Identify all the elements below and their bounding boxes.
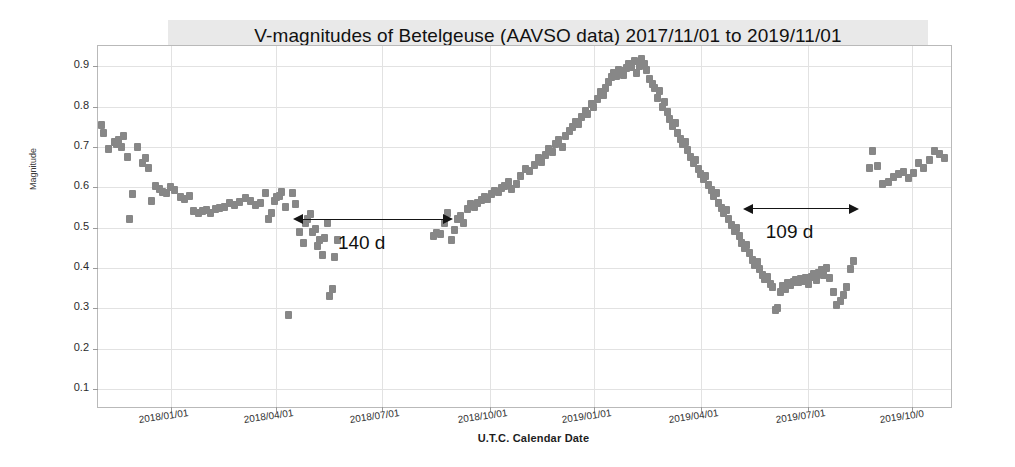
y-tick-mark bbox=[93, 268, 98, 269]
data-point bbox=[126, 215, 133, 223]
data-point bbox=[874, 162, 881, 170]
data-point bbox=[292, 200, 299, 208]
data-point bbox=[843, 283, 850, 291]
data-point bbox=[129, 190, 136, 198]
data-point bbox=[105, 145, 112, 153]
data-point bbox=[656, 87, 663, 95]
y-tick-mark bbox=[93, 187, 98, 188]
x-tick-label: 2019/04/01 bbox=[668, 407, 719, 425]
data-point bbox=[620, 71, 627, 79]
data-point bbox=[307, 210, 314, 218]
data-point bbox=[186, 192, 193, 200]
y-tick-label: 0.8 bbox=[0, 99, 89, 111]
y-tick-mark bbox=[93, 349, 98, 350]
data-point bbox=[460, 219, 467, 227]
data-point bbox=[590, 103, 597, 111]
y-tick-mark bbox=[93, 107, 98, 108]
y-tick-label: 0.2 bbox=[0, 341, 89, 353]
data-point bbox=[926, 156, 933, 164]
annotation-arrow-head-right bbox=[849, 204, 859, 214]
data-point bbox=[723, 206, 730, 214]
annotation-label: 109 d bbox=[766, 221, 814, 243]
data-point bbox=[312, 225, 319, 233]
gridline-horizontal bbox=[98, 187, 951, 188]
data-point bbox=[531, 161, 538, 169]
gridline-horizontal bbox=[98, 349, 951, 350]
data-point bbox=[823, 264, 830, 272]
data-point bbox=[285, 311, 292, 319]
x-tick-label: 2019/10/0 bbox=[879, 408, 925, 425]
plot-area bbox=[97, 45, 952, 408]
data-point bbox=[451, 226, 458, 234]
gridline-horizontal bbox=[98, 389, 951, 390]
data-point bbox=[682, 138, 689, 146]
annotation-arrow-line bbox=[751, 208, 851, 209]
data-point bbox=[289, 189, 296, 197]
gridline-vertical bbox=[701, 46, 702, 407]
y-tick-label: 0.7 bbox=[0, 139, 89, 151]
gridline-horizontal bbox=[98, 107, 951, 108]
data-point bbox=[134, 143, 141, 151]
gridline-vertical bbox=[382, 46, 383, 407]
data-point bbox=[513, 180, 520, 188]
data-point bbox=[296, 228, 303, 236]
x-tick-label: 2018/07/01 bbox=[349, 407, 400, 425]
x-tick-label: 2018/01/01 bbox=[138, 407, 189, 425]
data-point bbox=[774, 304, 781, 312]
x-tick-label: 2018/04/01 bbox=[243, 407, 294, 425]
data-point bbox=[278, 188, 285, 196]
annotation-label: 140 d bbox=[338, 232, 386, 254]
annotation-arrow-line bbox=[301, 219, 445, 220]
data-point bbox=[142, 154, 149, 162]
data-point bbox=[148, 197, 155, 205]
x-axis-title: U.T.C. Calendar Date bbox=[478, 432, 590, 444]
data-point bbox=[866, 164, 873, 172]
gridline-vertical bbox=[276, 46, 277, 407]
chart-title: V-magnitudes of Betelgeuse (AAVSO data) … bbox=[254, 25, 841, 47]
data-point bbox=[840, 291, 847, 299]
data-point bbox=[98, 121, 105, 129]
data-point bbox=[584, 110, 591, 118]
data-point bbox=[257, 199, 264, 207]
x-tick-label: 2019/01/01 bbox=[561, 407, 612, 425]
gridline-horizontal bbox=[98, 228, 951, 229]
data-point bbox=[145, 164, 152, 172]
y-tick-label: 0.9 bbox=[0, 58, 89, 70]
data-point bbox=[437, 230, 444, 238]
betelgeuse-light-curve-figure: V-magnitudes of Betelgeuse (AAVSO data) … bbox=[0, 0, 1015, 467]
data-point bbox=[910, 169, 917, 177]
data-point bbox=[830, 288, 837, 296]
data-point bbox=[643, 66, 650, 74]
gridline-horizontal bbox=[98, 308, 951, 309]
data-point bbox=[692, 156, 699, 164]
data-point bbox=[869, 147, 876, 155]
data-point bbox=[538, 158, 545, 166]
data-point bbox=[319, 251, 326, 259]
data-point bbox=[300, 239, 307, 247]
gridline-horizontal bbox=[98, 66, 951, 67]
y-tick-label: 0.4 bbox=[0, 260, 89, 272]
data-point bbox=[850, 257, 857, 265]
data-point bbox=[118, 143, 125, 151]
data-point bbox=[517, 172, 524, 180]
data-point bbox=[847, 265, 854, 273]
data-point bbox=[713, 189, 720, 197]
y-tick-label: 0.3 bbox=[0, 300, 89, 312]
data-point bbox=[324, 219, 331, 227]
data-point bbox=[326, 292, 333, 300]
annotation-arrow-head-left bbox=[293, 214, 303, 224]
y-tick-label: 0.1 bbox=[0, 381, 89, 393]
data-point bbox=[282, 203, 289, 211]
data-point bbox=[672, 119, 679, 127]
gridline-vertical bbox=[912, 46, 913, 407]
x-axis-title-wrap: U.T.C. Calendar Date bbox=[0, 432, 1015, 444]
data-point bbox=[120, 132, 127, 140]
annotation-arrow-head-left bbox=[743, 204, 753, 214]
y-tick-label: 0.5 bbox=[0, 220, 89, 232]
data-point bbox=[733, 224, 740, 232]
y-tick-mark bbox=[93, 147, 98, 148]
data-point bbox=[100, 129, 107, 137]
gridline-horizontal bbox=[98, 147, 951, 148]
data-point bbox=[321, 234, 328, 242]
y-tick-label: 0.6 bbox=[0, 179, 89, 191]
